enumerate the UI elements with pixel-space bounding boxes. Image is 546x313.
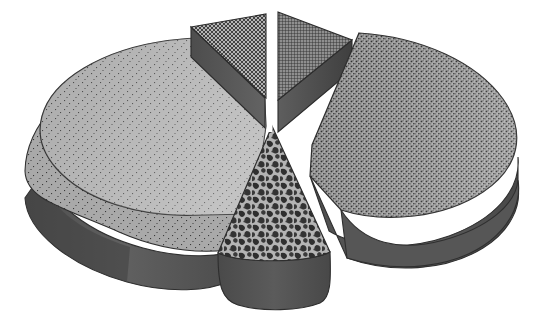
slice-3-label: 9 xyxy=(310,36,319,53)
slice-5-label: 13 xyxy=(274,201,292,218)
pie-chart-figure: 32 8 9 38 13 xyxy=(0,0,546,313)
slice-1-label: 32 xyxy=(120,116,138,133)
slice-4-label: 38 xyxy=(420,116,438,133)
pie-chart-canvas: 32 8 9 38 13 xyxy=(0,0,546,313)
slice-gap-divider xyxy=(268,0,273,132)
slice-2-label: 8 xyxy=(228,41,237,58)
